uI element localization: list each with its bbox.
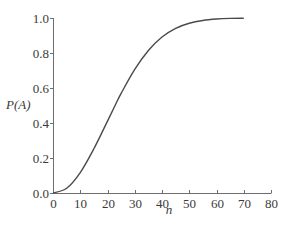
y-tick-label: 1.0 — [33, 11, 49, 26]
x-tick-label: 10 — [74, 196, 87, 211]
x-axis-label: n — [166, 202, 173, 217]
x-tick-label: 60 — [211, 196, 224, 211]
y-axis-label: P(A) — [5, 97, 31, 112]
x-tick-label: 50 — [183, 196, 196, 211]
y-tick-label: 0.6 — [33, 81, 50, 96]
chart: 0.00.20.40.60.81.0 01020304050607080 P(A… — [0, 0, 292, 228]
y-tick-label: 0.2 — [33, 151, 49, 166]
x-tick-label: 30 — [129, 196, 142, 211]
x-tick-label: 80 — [265, 196, 278, 211]
x-tick-label: 70 — [238, 196, 251, 211]
y-tick-label: 0.4 — [33, 116, 50, 131]
y-axis-ticks: 0.00.20.40.60.81.0 — [33, 11, 54, 201]
x-tick-label: 20 — [102, 196, 115, 211]
y-tick-label: 0.8 — [33, 46, 49, 61]
x-tick-label: 0 — [50, 196, 57, 211]
probability-curve — [53, 18, 244, 193]
y-tick-label: 0.0 — [33, 186, 49, 201]
